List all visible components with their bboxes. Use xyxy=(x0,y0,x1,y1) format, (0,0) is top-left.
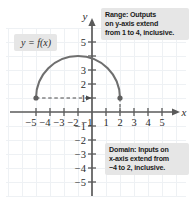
domain-annotation-line-3: −4 to 2, inclusive. xyxy=(109,164,186,173)
endpoint-dot-right xyxy=(117,95,122,100)
y-tick-label--5: −5 xyxy=(75,177,86,188)
range-annotation: Range: Outputs on y-axis extend from 1 t… xyxy=(101,8,189,40)
x-axis-label: x xyxy=(181,106,187,118)
range-annotation-line-1: Range: Outputs xyxy=(105,11,186,20)
figure-canvas: −5 −4 −3 −2 −1 1 2 3 4 5 5 3 2 1 −1 −2 −… xyxy=(0,0,193,206)
x-tick-label-2: 2 xyxy=(117,117,122,128)
y-tick-label-5: 5 xyxy=(81,37,86,48)
domain-annotation: Domain: Inputs on x-axis extend from −4 … xyxy=(105,143,189,175)
y-axis-label: y xyxy=(82,10,88,22)
y-tick-label--4: −4 xyxy=(75,163,87,174)
x-tick-label-4: 4 xyxy=(145,117,151,128)
function-label-callout: y = f(x) xyxy=(14,34,57,51)
endpoint-dot-left xyxy=(33,95,38,100)
y-tick-label-1: 1 xyxy=(81,93,86,104)
x-tick-label-3: 3 xyxy=(131,117,136,128)
guide-arrowhead xyxy=(86,96,92,101)
y-tick-label--3: −3 xyxy=(75,149,86,160)
x-tick-label-5: 5 xyxy=(159,117,164,128)
y-tick-label--1: −1 xyxy=(75,121,86,132)
x-tick-label--5: −5 xyxy=(25,117,36,128)
x-tick-label--4: −4 xyxy=(39,117,51,128)
x-tick-label--3: −3 xyxy=(53,117,64,128)
x-tick-label-1: 1 xyxy=(103,117,108,128)
range-annotation-line-2: on y-axis extend xyxy=(105,20,186,29)
y-axis-arrowhead xyxy=(88,18,95,26)
domain-annotation-line-1: Domain: Inputs on xyxy=(109,146,186,155)
y-tick-label--2: −2 xyxy=(75,135,86,146)
y-tick-label-3: 3 xyxy=(81,65,86,76)
y-tick-label-2: 2 xyxy=(81,79,86,90)
domain-annotation-line-2: x-axis extend from xyxy=(109,155,186,164)
range-annotation-line-3: from 1 to 4, inclusive. xyxy=(105,29,186,38)
